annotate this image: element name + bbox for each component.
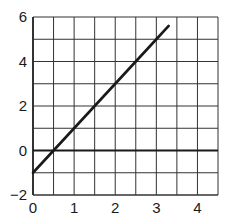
x-tick-label: 2 [111,199,119,216]
y-tick-labels: −20246 [10,8,27,203]
x-tick-label: 1 [70,199,78,216]
x-tick-label: 3 [152,199,160,216]
x-tick-label: 0 [29,199,37,216]
grid-lines [33,17,218,195]
y-tick-label: −2 [10,186,27,203]
x-tick-labels: 01234 [29,199,202,216]
y-tick-label: 0 [19,142,27,159]
line-chart: −20246 01234 [0,0,229,224]
y-tick-label: 6 [19,8,27,25]
y-tick-label: 4 [19,53,27,70]
x-tick-label: 4 [193,199,201,216]
y-tick-label: 2 [19,97,27,114]
